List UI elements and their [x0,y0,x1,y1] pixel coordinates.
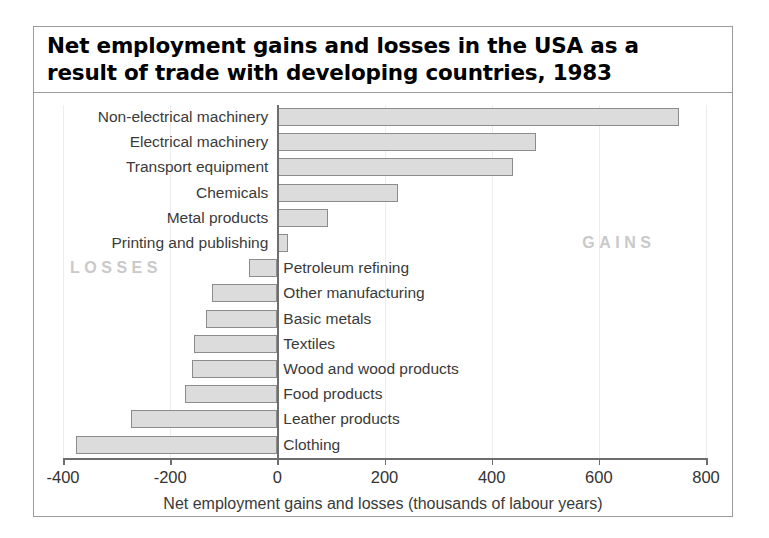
x-tick-label: 200 [345,468,425,487]
bar-row: Wood and wood products [34,357,732,382]
bar[interactable] [194,335,277,353]
category-label: Printing and publishing [112,233,269,253]
category-label: Non-electrical machinery [98,107,269,127]
title-line-1: Net employment gains and losses in the U… [47,33,639,58]
x-tick [492,458,494,465]
bar-row: Basic metals [34,307,732,332]
plot-area: Non-electrical machineryElectrical machi… [34,93,732,516]
x-tick [63,458,65,465]
bar-row: Other manufacturing [34,281,732,306]
bar-row: Non-electrical machinery [34,105,732,130]
category-label: Petroleum refining [283,258,409,278]
chart-frame: Net employment gains and losses in the U… [33,26,733,517]
category-label: Wood and wood products [283,359,459,379]
category-label: Leather products [283,409,399,429]
category-label: Clothing [283,435,340,455]
bar-row: Clothing [34,433,732,458]
bar[interactable] [131,410,277,428]
x-tick [277,458,279,465]
chart-page: Net employment gains and losses in the U… [0,0,769,538]
bar[interactable] [212,284,277,302]
bar[interactable] [249,259,277,277]
bar-row: Metal products [34,206,732,231]
x-tick [170,458,172,465]
bar-row: Transport equipment [34,155,732,180]
bar[interactable] [277,184,398,202]
losses-annotation: LOSSES [70,259,162,277]
bar[interactable] [277,108,679,126]
x-tick [706,458,708,465]
x-tick-label: 0 [237,468,317,487]
bar[interactable] [277,133,535,151]
x-tick-label: -200 [130,468,210,487]
category-label: Metal products [167,208,269,228]
category-label: Textiles [283,334,335,354]
bar[interactable] [277,209,328,227]
category-label: Chemicals [196,183,268,203]
bar-row: Food products [34,382,732,407]
category-label: Food products [283,384,382,404]
gains-annotation: GAINS [582,234,655,252]
x-axis-title: Net employment gains and losses (thousan… [34,495,732,513]
bar[interactable] [192,360,277,378]
category-label: Electrical machinery [130,132,269,152]
x-tick-label: 800 [666,468,746,487]
x-tick [599,458,601,465]
bar[interactable] [277,158,513,176]
x-tick [385,458,387,465]
title-block: Net employment gains and losses in the U… [34,27,732,93]
bar-row: Electrical machinery [34,130,732,155]
x-tick-label: 600 [559,468,639,487]
bar[interactable] [277,234,288,252]
category-label: Transport equipment [126,157,268,177]
x-tick-label: 400 [452,468,532,487]
bar-row: Textiles [34,332,732,357]
category-label: Basic metals [283,309,371,329]
x-tick-label: -400 [23,468,103,487]
bar[interactable] [185,385,277,403]
zero-axis-line [277,105,279,458]
bar[interactable] [206,310,277,328]
bar[interactable] [76,436,277,454]
title-line-2: result of trade with developing countrie… [47,60,612,85]
bar-row: Leather products [34,407,732,432]
bar-row: Chemicals [34,181,732,206]
category-label: Other manufacturing [283,283,424,303]
page-title: Net employment gains and losses in the U… [47,32,718,86]
